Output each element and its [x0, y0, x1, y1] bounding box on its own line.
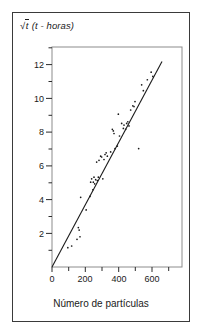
data-point — [71, 245, 73, 247]
data-point — [127, 121, 129, 123]
data-point — [93, 176, 95, 178]
data-point — [104, 154, 106, 156]
data-point — [141, 84, 143, 86]
data-point — [103, 159, 105, 161]
data-point — [121, 123, 123, 125]
data-point — [116, 145, 118, 147]
data-point — [123, 124, 125, 126]
data-point — [76, 238, 78, 240]
y-tick-label-6: 6 — [26, 161, 44, 171]
data-point — [77, 227, 79, 229]
figure-container: √t (t - horas) Número de partículas — [0, 0, 203, 334]
data-point — [80, 196, 82, 198]
data-point — [150, 71, 152, 73]
data-point — [95, 179, 97, 181]
data-point — [67, 247, 69, 249]
data-point — [122, 128, 124, 130]
data-point — [111, 128, 113, 130]
data-point — [96, 180, 98, 182]
x-tick-label-600: 600 — [140, 274, 164, 284]
data-point — [96, 161, 98, 163]
y-tick-label-10: 10 — [26, 94, 44, 104]
data-point — [105, 152, 107, 154]
x-tick-label-0: 0 — [40, 274, 64, 284]
data-point — [130, 109, 132, 111]
data-point — [98, 160, 100, 162]
x-tick-label-200: 200 — [73, 274, 97, 284]
data-point — [78, 229, 80, 231]
y-tick-label-12: 12 — [26, 60, 44, 70]
data-point — [106, 155, 108, 157]
data-point — [133, 106, 135, 108]
data-point — [91, 178, 93, 180]
data-point — [125, 128, 127, 130]
y-tick-label-8: 8 — [26, 127, 44, 137]
data-point — [90, 181, 92, 183]
data-point — [152, 76, 154, 78]
data-point — [102, 178, 104, 180]
data-point — [119, 135, 121, 137]
data-point — [142, 90, 144, 92]
data-point — [113, 133, 115, 135]
data-point — [101, 156, 103, 158]
data-point — [112, 130, 114, 132]
data-point — [114, 148, 116, 150]
data-point — [138, 148, 140, 150]
data-point — [110, 151, 112, 153]
data-point — [85, 209, 87, 211]
y-tick-label-2: 2 — [26, 229, 44, 239]
data-point — [94, 183, 96, 185]
data-point — [89, 196, 91, 198]
plot-frame — [52, 47, 182, 267]
data-point — [146, 79, 148, 81]
data-point — [128, 125, 130, 127]
data-point — [79, 236, 81, 238]
data-point — [92, 181, 94, 183]
data-point — [97, 176, 99, 178]
data-point — [126, 123, 128, 125]
data-point — [134, 101, 136, 103]
y-axis-minor-ticks — [49, 48, 53, 251]
y-tick-label-4: 4 — [26, 195, 44, 205]
x-tick-label-400: 400 — [107, 274, 131, 284]
data-point — [92, 189, 94, 191]
data-point — [117, 113, 119, 115]
